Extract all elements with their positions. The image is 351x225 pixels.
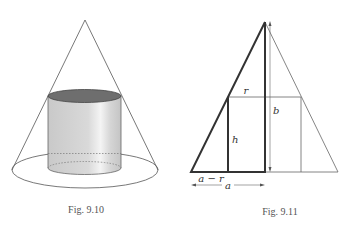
arrowhead-b-bottom [269,167,272,172]
arrowhead-a-right [260,184,265,187]
cone-base-ellipse-back-left [12,154,48,170]
diagram-canvas: Fig. 9.10 r b h a − r a Fig. 9.11 [0,0,351,225]
arrowhead-b-top [269,21,272,26]
label-a: a [225,180,231,191]
figure-9-11: r b h a − r a Fig. 9.11 [191,21,338,217]
label-b: b [273,105,279,116]
cone-base-ellipse-back-right [121,154,158,170]
caption-fig-9-11: Fig. 9.11 [262,206,297,217]
caption-fig-9-10: Fig. 9.10 [68,204,104,215]
arrowhead-a-left [191,184,196,187]
cylinder-body [48,96,121,175]
label-r: r [244,85,250,96]
cylinder-top [48,90,121,103]
figure-9-10: Fig. 9.10 [12,20,158,215]
label-h: h [232,134,238,145]
label-a-minus-r: a − r [198,173,225,184]
